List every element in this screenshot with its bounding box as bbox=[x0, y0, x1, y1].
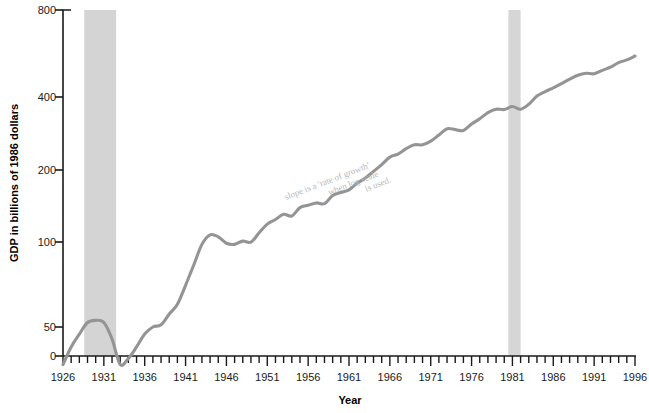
x-tick-label: 1971 bbox=[418, 371, 442, 383]
x-tick-label: 1931 bbox=[92, 371, 116, 383]
x-tick-label: 1936 bbox=[132, 371, 156, 383]
y-tick-label: 800 bbox=[38, 4, 56, 16]
x-axis-ticks bbox=[63, 356, 635, 366]
x-tick-label: 1941 bbox=[173, 371, 197, 383]
x-tick-label: 1926 bbox=[51, 371, 75, 383]
x-tick-label: 1966 bbox=[378, 371, 402, 383]
x-tick-label: 1986 bbox=[541, 371, 565, 383]
y-tick-label: 100 bbox=[38, 236, 56, 248]
x-tick-label: 1991 bbox=[582, 371, 606, 383]
x-tick-label: 1946 bbox=[214, 371, 238, 383]
x-tick-label: 1996 bbox=[623, 371, 647, 383]
x-tick-labels: 1926193119361941194619511956196119661971… bbox=[51, 371, 647, 383]
x-tick-label: 1956 bbox=[296, 371, 320, 383]
shaded-band-early-1980s-recession bbox=[508, 10, 520, 356]
x-axis-title: Year bbox=[338, 394, 362, 406]
shaded-bands-layer bbox=[84, 10, 520, 356]
shaded-band-great-depression bbox=[84, 10, 116, 356]
x-tick-label: 1976 bbox=[459, 371, 483, 383]
y-tick-label: 0 bbox=[50, 350, 56, 362]
gdp-series-line bbox=[63, 56, 635, 365]
y-tick-label: 400 bbox=[38, 91, 56, 103]
x-tick-label: 1951 bbox=[255, 371, 279, 383]
y-tick-label: 200 bbox=[38, 164, 56, 176]
y-tick-label: 50 bbox=[44, 321, 56, 333]
x-tick-label: 1981 bbox=[500, 371, 524, 383]
gdp-log-scale-chart: 800 400 200 100 50 0 1926193119361941194… bbox=[0, 0, 649, 413]
y-tick-labels: 800 400 200 100 50 0 bbox=[38, 4, 56, 362]
y-axis-title: GDP in billions of 1986 dollars bbox=[8, 104, 20, 262]
chart-canvas: 800 400 200 100 50 0 1926193119361941194… bbox=[0, 0, 649, 413]
x-tick-label: 1961 bbox=[337, 371, 361, 383]
handwritten-annotation: slope is a 'rate of growth' when log sca… bbox=[283, 155, 392, 222]
y-axis-ticks bbox=[55, 10, 63, 356]
